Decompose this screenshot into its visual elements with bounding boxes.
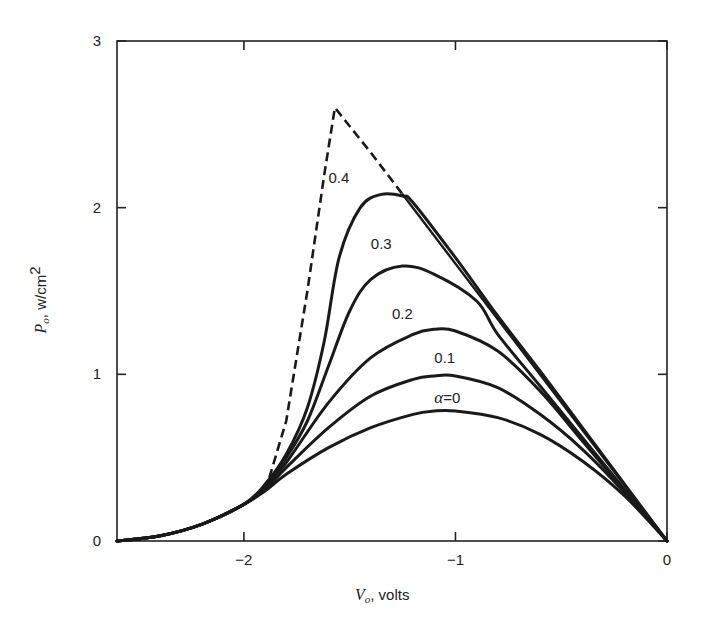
- curve-label: 0.3: [371, 235, 392, 252]
- x-axis-title: Vo, volts: [355, 586, 409, 605]
- tick-labels: −2−100123: [93, 32, 672, 568]
- x-tick-label: 0: [663, 551, 671, 568]
- y-tick-label: 3: [93, 32, 101, 49]
- curve-label: 0.2: [392, 305, 413, 322]
- y-tick-label: 0: [93, 532, 101, 549]
- curve-0-1: [117, 375, 667, 541]
- curve-label: α=0: [434, 388, 460, 407]
- curve-labels: 0.40.30.20.1α=0: [329, 169, 461, 407]
- curve-0-4: [117, 194, 667, 541]
- y-tick-label: 1: [93, 365, 101, 382]
- curve-label: 0.1: [434, 349, 455, 366]
- x-axis-symbol: Vo, volts: [355, 586, 409, 605]
- y-tick-label: 2: [93, 199, 101, 216]
- plot-border: [117, 41, 667, 541]
- curves: [117, 108, 667, 541]
- x-tick-label: −1: [447, 551, 464, 568]
- curve-label: 0.4: [329, 169, 350, 186]
- chart: −2−100123 0.40.30.20.1α=0 Vo, volts Po, …: [0, 0, 702, 631]
- x-tick-label: −2: [235, 551, 252, 568]
- y-axis-symbol: Po, w/cm2: [26, 267, 51, 335]
- curve-envelope-solid-tangent-: [403, 194, 667, 541]
- y-axis-title: Po, w/cm2: [26, 267, 51, 335]
- axis-ticks: [117, 41, 667, 541]
- plot-frame: [117, 41, 667, 541]
